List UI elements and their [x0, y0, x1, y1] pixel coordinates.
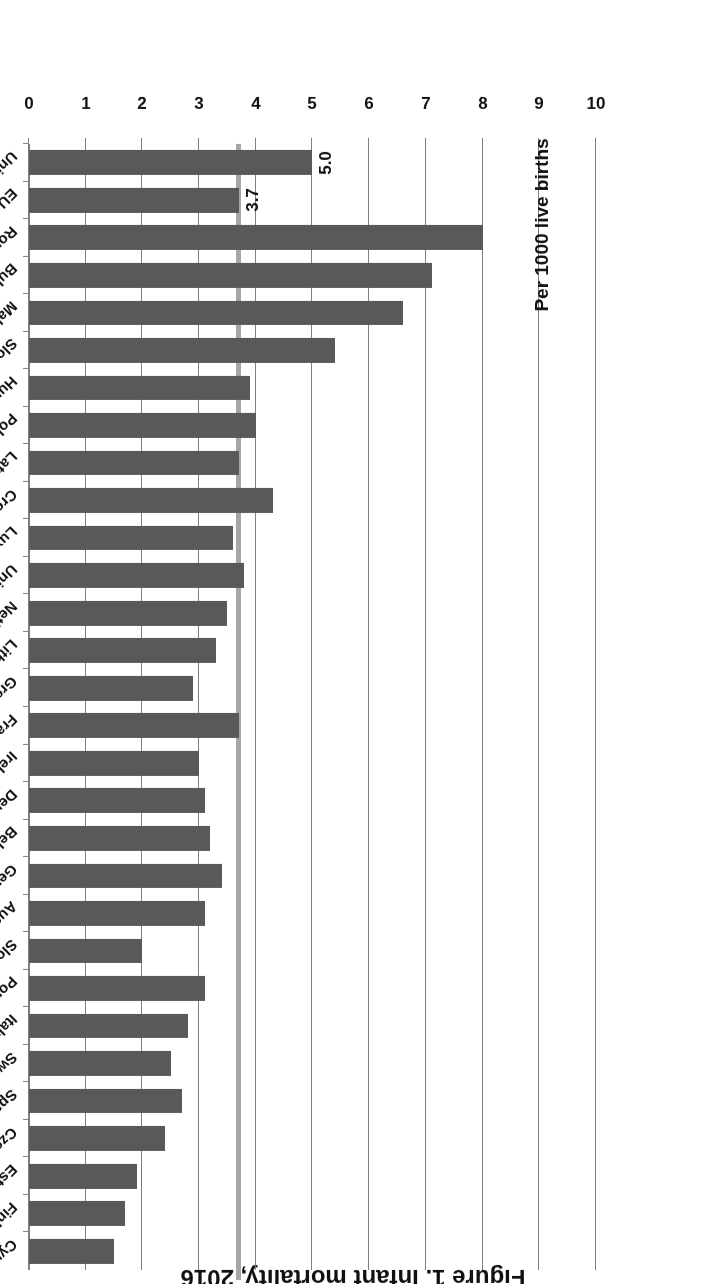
category-label-malta: Malta	[0, 298, 21, 337]
category-tick	[23, 668, 29, 669]
category-tick	[23, 331, 29, 332]
category-tick	[23, 819, 29, 820]
value-tick-label-8: 8	[463, 94, 503, 114]
bar-romania	[29, 225, 483, 250]
category-tick	[23, 744, 29, 745]
bar-row	[29, 301, 596, 326]
category-label-latvia: Latvia	[0, 449, 21, 492]
bar-row	[29, 713, 596, 738]
category-tick	[23, 631, 29, 632]
bar-slovakia	[29, 338, 335, 363]
data-label-united-states: 5.0	[317, 151, 337, 175]
bar-netherlands	[29, 601, 227, 626]
category-tick	[23, 781, 29, 782]
bar-row	[29, 338, 596, 363]
category-tick	[23, 706, 29, 707]
bar-row	[29, 1164, 596, 1189]
category-tick	[23, 1044, 29, 1045]
bar-czech-republic	[29, 1126, 165, 1151]
category-tick	[23, 894, 29, 895]
bar-row	[29, 1014, 596, 1039]
bar-finland	[29, 1201, 125, 1226]
value-tickmark-4	[255, 138, 256, 145]
category-tick	[23, 1081, 29, 1082]
value-tick-label-1: 1	[66, 94, 106, 114]
bar-latvia	[29, 451, 239, 476]
value-tickmark-6	[368, 138, 369, 145]
bar-row	[29, 601, 596, 626]
category-tick	[23, 368, 29, 369]
plot-area: CyprusFinlandEstoniaCzech RepublicSpainS…	[29, 48, 596, 1270]
data-label-eu-28: 3.7	[243, 188, 263, 212]
value-tick-label-9: 9	[519, 94, 559, 114]
category-label-spain: Spain	[0, 1087, 21, 1128]
category-label-italy: Italy	[0, 1012, 21, 1045]
bar-poland	[29, 413, 256, 438]
category-tick	[23, 969, 29, 970]
bar-austria	[29, 901, 205, 926]
value-tick-label-6: 6	[349, 94, 389, 114]
bar-slovenia	[29, 939, 142, 964]
category-tick	[23, 1156, 29, 1157]
bar-row	[29, 939, 596, 964]
bar-bulgaria	[29, 263, 432, 288]
bar-row	[29, 901, 596, 926]
figure-canvas: Figure 1. Infant mortality, 2016 CyprusF…	[0, 0, 706, 1284]
bar-row	[29, 263, 596, 288]
bar-row	[29, 376, 596, 401]
bar-row	[29, 788, 596, 813]
value-tickmark-10	[595, 138, 596, 145]
bar-row	[29, 526, 596, 551]
bar-france	[29, 713, 239, 738]
bar-sweden	[29, 1051, 171, 1076]
bar-row	[29, 864, 596, 889]
bar-malta	[29, 301, 403, 326]
value-tick-label-0: 0	[9, 94, 49, 114]
category-tick	[23, 931, 29, 932]
value-tick-label-4: 4	[236, 94, 276, 114]
value-tickmark-1	[85, 138, 86, 145]
bar-portugal	[29, 976, 205, 1001]
category-tick	[23, 406, 29, 407]
category-tick	[23, 1231, 29, 1232]
bar-ireland	[29, 751, 199, 776]
category-tick	[23, 1119, 29, 1120]
category-tick	[23, 1006, 29, 1007]
value-tickmark-3	[198, 138, 199, 145]
value-tickmark-2	[141, 138, 142, 145]
bar-row	[29, 1239, 596, 1264]
bar-denmark	[29, 788, 205, 813]
bar-row	[29, 413, 596, 438]
value-tickmark-8	[482, 138, 483, 145]
bar-row	[29, 1051, 596, 1076]
bar-row	[29, 563, 596, 588]
bar-row	[29, 1126, 596, 1151]
bar-row	[29, 638, 596, 663]
bar-belgium	[29, 826, 210, 851]
value-tickmark-0	[28, 138, 29, 145]
bar-row	[29, 676, 596, 701]
bar-eu-28	[29, 188, 239, 213]
bar-lithuania	[29, 638, 216, 663]
bar-hungary	[29, 376, 250, 401]
category-tick	[23, 256, 29, 257]
bar-row	[29, 150, 596, 175]
category-tick	[23, 856, 29, 857]
category-tick	[23, 293, 29, 294]
bar-row	[29, 488, 596, 513]
category-tick	[23, 593, 29, 594]
value-tick-label-7: 7	[406, 94, 446, 114]
bar-estonia	[29, 1164, 137, 1189]
bar-row	[29, 188, 596, 213]
bar-croatia	[29, 488, 273, 513]
value-tickmark-7	[425, 138, 426, 145]
category-tick	[23, 518, 29, 519]
category-tick	[23, 1194, 29, 1195]
value-tickmark-5	[312, 138, 313, 145]
bar-spain	[29, 1089, 182, 1114]
bar-row	[29, 826, 596, 851]
bar-row	[29, 225, 596, 250]
category-label-eu-28: EU-28	[0, 186, 21, 228]
bar-italy	[29, 1014, 188, 1039]
axis-note-label: Per 1000 live births	[532, 138, 554, 311]
